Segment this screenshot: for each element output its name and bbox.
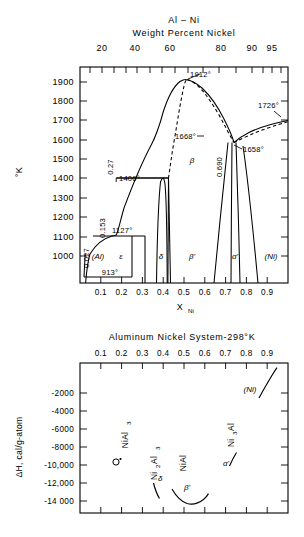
top-axis-tick-20: 20 xyxy=(97,43,108,53)
top-x-axis-label: X Ni xyxy=(177,302,194,314)
top-axis-tick-80: 80 xyxy=(216,43,227,53)
nial3-base: NiAl xyxy=(120,432,130,449)
phase-label-al: (Al) xyxy=(92,252,105,261)
top-chart-title: Al – Ni xyxy=(168,15,199,25)
x-axis-subscript: Ni xyxy=(188,307,194,314)
top-x-tick-0-1: 0.1 xyxy=(95,288,107,297)
alpha-prime-right-boundary xyxy=(236,143,240,284)
temp-label-1406: 1406° xyxy=(119,174,140,183)
top-x-tick-0-2: 0.2 xyxy=(115,288,127,297)
top-y-axis-label: °K xyxy=(14,167,24,177)
phase-label-beta: β xyxy=(189,156,195,165)
top-chart-subtitle: Weight Percent Nickel xyxy=(132,28,235,38)
x-axis-symbol: X xyxy=(177,302,183,312)
top-x-tick-0-3: 0.3 xyxy=(136,288,148,297)
temp-label-1668: 1668° xyxy=(175,132,196,141)
delta-left-boundary xyxy=(157,178,164,283)
top-axis-tick-60: 60 xyxy=(165,43,176,53)
bottom-x-ticks-bottom xyxy=(101,507,267,513)
comp-label-0-27: 0.27 xyxy=(106,159,115,175)
temp-label-1912: 1912° xyxy=(190,70,211,79)
solidus-ni-dashed xyxy=(234,122,288,143)
top-x-tick-0-5: 0.5 xyxy=(178,288,190,297)
bottom-x-tick-0-4: 0.4 xyxy=(157,349,169,358)
compound-label-nial: NiAl xyxy=(178,455,188,472)
bottom-curves xyxy=(154,368,278,504)
bottom-y-tick--6000: -6000 xyxy=(52,425,75,434)
bottom-phase-label-ni: (Ni) xyxy=(244,385,257,394)
ni2al3-al: Al xyxy=(149,456,159,464)
bottom-x-tick-0-3: 0.3 xyxy=(136,349,148,358)
nial3-sub: 3 xyxy=(125,421,132,425)
top-x-ticks xyxy=(101,277,267,283)
delta-branch-curve xyxy=(154,483,160,499)
bottom-phase-label-alpha-prime: α' xyxy=(223,459,230,468)
bottom-phase-label-beta-prime: β' xyxy=(183,483,191,492)
leader-1658 xyxy=(234,145,242,149)
top-y-tick-1600: 1600 xyxy=(52,135,74,145)
top-y-tick-1100: 1100 xyxy=(53,232,74,242)
top-axis-ticks xyxy=(90,67,281,73)
bottom-x-tick-0-5: 0.5 xyxy=(178,349,190,358)
bottom-chart-title: Aluminum Nickel System-298°K xyxy=(109,332,256,342)
bottom-x-tick-0-7: 0.7 xyxy=(219,349,231,358)
circle-marker-icon xyxy=(113,459,119,465)
top-y-tick-1700: 1700 xyxy=(52,115,74,125)
ni3al-ni: Ni xyxy=(226,438,236,447)
ni-branch-curve xyxy=(259,368,277,398)
top-x-tick-0-6: 0.6 xyxy=(199,288,211,297)
top-x-tick-0-4: 0.4 xyxy=(157,288,169,297)
temp-label-1726: 1726° xyxy=(258,101,279,110)
phase-label-beta-prime: β' xyxy=(188,252,196,261)
bottom-x-tick-0-1: 0.1 xyxy=(95,349,107,358)
marker-dot-icon xyxy=(119,458,121,460)
bottom-y-tick--10000: -10,000 xyxy=(44,461,74,470)
top-x-tick-0-9: 0.9 xyxy=(261,288,273,297)
alpha-prime-left-boundary xyxy=(231,143,232,284)
temp-leader-lines xyxy=(188,74,281,149)
top-x-tick-0-8: 0.8 xyxy=(240,288,252,297)
leader-1726 xyxy=(274,111,281,117)
bottom-x-tick-0-9: 0.9 xyxy=(261,349,273,358)
top-x-tick-0-7: 0.7 xyxy=(219,288,231,297)
bottom-x-ticks-top xyxy=(101,363,267,369)
comp-label-0-153: 0.153 xyxy=(98,218,107,238)
top-y-tick-1200: 1200 xyxy=(52,212,74,222)
phase-label-alpha-prime: α' xyxy=(232,252,239,261)
temp-label-1127: 1127° xyxy=(112,226,132,235)
bottom-compound-labels: NiAl 3 Ni 2 Al 3 NiAl Ni 3 Al xyxy=(120,421,238,480)
bottom-x-tick-0-8: 0.8 xyxy=(240,349,252,358)
bottom-y-axis-label: ΔH, cal/g-atom xyxy=(14,416,24,477)
data-point-marker-group xyxy=(113,458,122,465)
nial-base: NiAl xyxy=(178,455,188,472)
top-y-tick-1900: 1900 xyxy=(52,77,74,87)
top-y-tick-1500: 1500 xyxy=(52,154,74,164)
comp-label-0-690: 0.690 xyxy=(215,157,224,177)
beta-prime-outer-left xyxy=(168,178,169,283)
ni2al3-sub2: 3 xyxy=(154,446,161,450)
top-chart: Al – Ni Weight Percent Nickel 20 40 60 8… xyxy=(14,15,288,314)
bottom-phase-label-delta: δ xyxy=(158,474,163,483)
compound-label-nial3: NiAl 3 xyxy=(120,421,132,448)
bottom-y-tick--14000: -14 000 xyxy=(44,497,74,506)
bottom-y-tick--4000: -4000 xyxy=(52,407,75,416)
bottom-y-tick--8000: -8000 xyxy=(52,443,75,452)
compound-label-ni3al: Ni 3 Al xyxy=(226,423,238,447)
top-y-tick-1000: 1000 xyxy=(52,251,74,261)
bottom-y-tick--2000: -2000 xyxy=(52,389,75,398)
ni-solvus-boundary xyxy=(243,146,258,283)
bottom-y-tick--12000: -12,000 xyxy=(44,479,74,488)
temp-label-1658: 1658° xyxy=(243,145,264,154)
bottom-x-tick-0-2: 0.2 xyxy=(115,349,127,358)
top-y-tick-1300: 1300 xyxy=(52,193,74,203)
phase-label-epsilon: ε xyxy=(119,252,123,261)
figure-root: Al – Ni Weight Percent Nickel 20 40 60 8… xyxy=(0,0,304,537)
bottom-x-tick-0-6: 0.6 xyxy=(199,349,211,358)
top-axis-tick-90: 90 xyxy=(247,43,258,53)
top-y-tick-1400: 1400 xyxy=(52,173,74,183)
top-y-tick-1800: 1800 xyxy=(52,96,74,106)
bottom-chart: Aluminum Nickel System-298°K 0.1 0.2 0.3… xyxy=(14,332,288,513)
alpha-prime-branch-curve xyxy=(230,453,237,467)
comp-label-0-027: 0.027 xyxy=(82,248,91,268)
temp-label-913: 913° xyxy=(102,268,119,277)
